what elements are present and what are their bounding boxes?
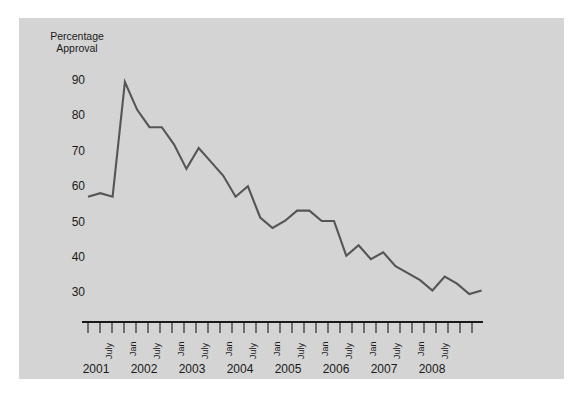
plot-area xyxy=(19,18,564,379)
x-month-label-july-2008: July xyxy=(440,343,450,359)
x-year-label-2001: 2001 xyxy=(73,362,119,376)
x-month-label-jan-2004: Jan xyxy=(224,341,234,356)
x-month-label-jan-2003: Jan xyxy=(176,341,186,356)
x-axis-ticks xyxy=(88,322,472,333)
x-month-label-july-2004: July xyxy=(248,343,258,359)
x-month-label-july-2007: July xyxy=(392,343,402,359)
x-year-label-2006: 2006 xyxy=(313,362,359,376)
approval-line xyxy=(88,82,482,294)
x-year-label-2008: 2008 xyxy=(409,362,455,376)
x-year-label-2002: 2002 xyxy=(121,362,167,376)
x-month-label-jan-2002: Jan xyxy=(128,341,138,356)
chart-figure: PercentageApproval 90 80 70 60 50 40 30 xyxy=(19,18,564,379)
x-month-label-jan-2007: Jan xyxy=(368,341,378,356)
x-year-label-2004: 2004 xyxy=(217,362,263,376)
x-month-label-july-2001: July xyxy=(104,343,114,359)
x-month-label-july-2005: July xyxy=(296,343,306,359)
x-month-label-jan-2006: Jan xyxy=(320,341,330,356)
x-month-label-jan-2008: Jan xyxy=(416,341,426,356)
x-month-label-july-2003: July xyxy=(200,343,210,359)
x-month-label-july-2006: July xyxy=(344,343,354,359)
x-month-label-jan-2005: Jan xyxy=(272,341,282,356)
x-year-label-2003: 2003 xyxy=(169,362,215,376)
x-year-label-2005: 2005 xyxy=(265,362,311,376)
x-month-label-july-2002: July xyxy=(152,343,162,359)
x-year-label-2007: 2007 xyxy=(361,362,407,376)
